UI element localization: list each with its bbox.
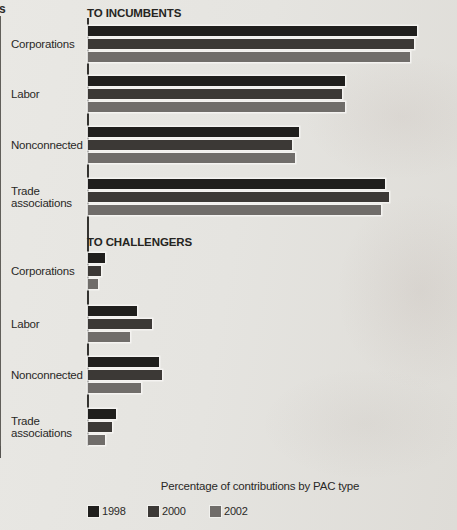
scanned-page: s 020406080100TO INCUMBENTSCorporationsL… — [0, 0, 457, 530]
category-label: Labor — [11, 305, 83, 343]
bar-2000-corporations — [88, 39, 414, 49]
bar-1998-labor — [88, 76, 345, 86]
bar-2002-trade-associations — [88, 435, 105, 445]
legend-item-2000: 2000 — [148, 505, 186, 517]
bar-2000-trade-associations — [88, 192, 389, 202]
bar-2002-nonconnected — [88, 383, 141, 393]
legend-label-2002: 2002 — [224, 505, 248, 517]
bar-2002-trade-associations — [88, 205, 381, 215]
bar-2002-labor — [88, 102, 345, 112]
bar-2000-labor — [88, 319, 152, 329]
section-header-incumbents: TO INCUMBENTS — [87, 7, 181, 19]
bar-1998-nonconnected — [88, 127, 299, 137]
bar-1998-corporations — [88, 253, 105, 263]
category-label: Trade associations — [11, 178, 83, 216]
legend-item-2002: 2002 — [210, 505, 248, 517]
x-axis-title: Percentage of contributions by PAC type — [74, 480, 446, 492]
category-label: Corporations — [11, 252, 83, 290]
bar-2000-nonconnected — [88, 370, 162, 380]
bar-2000-trade-associations — [88, 422, 112, 432]
category-label: Trade associations — [11, 408, 83, 446]
category-label: Nonconnected — [11, 126, 83, 164]
x-tick-100 — [0, 446, 1, 458]
category-label: Nonconnected — [11, 356, 83, 394]
bar-2000-corporations — [88, 266, 101, 276]
bar-1998-labor — [88, 306, 137, 316]
bar-2002-corporations — [88, 279, 98, 289]
bar-2002-corporations — [88, 52, 410, 62]
bar-1998-nonconnected — [88, 357, 159, 367]
bar-1998-trade-associations — [88, 409, 116, 419]
legend-item-1998: 1998 — [88, 505, 126, 517]
legend-swatch-2000 — [148, 506, 159, 517]
bar-2000-nonconnected — [88, 140, 292, 150]
gridline-100 — [0, 16, 1, 446]
section-header-challengers: TO CHALLENGERS — [87, 236, 192, 248]
bar-2002-nonconnected — [88, 153, 295, 163]
legend-label-2000: 2000 — [162, 505, 186, 517]
category-label: Labor — [11, 75, 83, 113]
bar-1998-trade-associations — [88, 179, 385, 189]
legend-swatch-2002 — [210, 506, 221, 517]
category-label: Corporations — [11, 25, 83, 63]
bar-1998-corporations — [88, 26, 417, 36]
legend-swatch-1998 — [88, 506, 99, 517]
legend-label-1998: 1998 — [102, 505, 126, 517]
bar-2000-labor — [88, 89, 342, 99]
cutoff-text-fragment: s — [0, 2, 6, 16]
bar-2002-labor — [88, 332, 130, 342]
